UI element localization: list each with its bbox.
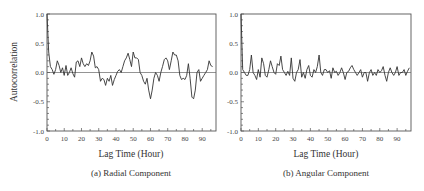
series-line	[241, 14, 409, 81]
x-tick-label: 30	[95, 135, 103, 143]
y-axis-label: Autocorrelation	[9, 42, 19, 102]
y-tick-label: -0.5	[227, 98, 239, 106]
y-tick-label: 0.5	[229, 40, 238, 48]
x-tick-label: 0	[239, 135, 243, 143]
x-tick-label: 60	[342, 135, 350, 143]
x-tick-label: 60	[147, 135, 155, 143]
autocorrelation-figure: Autocorrelation Lag Time (Hour) (a) Radi…	[0, 0, 424, 191]
y-tick-label: 0.0	[35, 69, 44, 77]
x-tick-label: 70	[164, 135, 172, 143]
radial-panel: Autocorrelation Lag Time (Hour) (a) Radi…	[9, 11, 216, 179]
x-tick-label: 20	[272, 135, 280, 143]
y-tick-label: 0.5	[35, 40, 44, 48]
x-tick-label: 50	[130, 135, 138, 143]
x-tick-label: 50	[324, 135, 332, 143]
x-tick-label: 0	[45, 135, 49, 143]
angular-panel: Lag Time (Hour) (b) Angular Component 1.…	[227, 11, 411, 179]
y-tick-label: 0.0	[229, 69, 238, 77]
panel-caption: (b) Angular Component	[283, 168, 369, 178]
y-tick-label: 1.0	[229, 11, 238, 19]
x-axis-label: Lag Time (Hour)	[99, 149, 164, 160]
x-tick-label: 20	[78, 135, 86, 143]
x-tick-label: 40	[307, 135, 315, 143]
x-tick-label: 90	[394, 135, 402, 143]
panel-caption: (a) Radial Component	[91, 168, 171, 178]
x-tick-label: 10	[255, 135, 263, 143]
series-line	[47, 14, 213, 99]
x-tick-label: 70	[359, 135, 367, 143]
x-tick-label: 40	[112, 135, 120, 143]
y-tick-label: -1.0	[227, 128, 239, 136]
x-tick-label: 80	[376, 135, 384, 143]
x-tick-label: 10	[61, 135, 69, 143]
x-tick-label: 80	[181, 135, 189, 143]
y-tick-label: -1.0	[33, 128, 45, 136]
x-axis-label: Lag Time (Hour)	[294, 149, 359, 160]
y-tick-label: -0.5	[33, 98, 45, 106]
y-tick-label: 1.0	[35, 11, 44, 19]
x-tick-label: 90	[199, 135, 207, 143]
x-tick-label: 30	[290, 135, 298, 143]
